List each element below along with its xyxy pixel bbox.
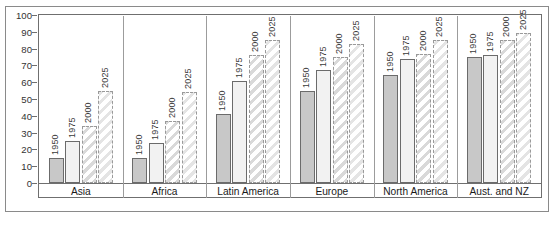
- bar-value-label: 2025: [100, 67, 110, 88]
- y-axis-tick-mark: [32, 133, 37, 134]
- bar-value-label: 2000: [334, 33, 344, 54]
- bar-group: 1950197520002025: [39, 15, 123, 183]
- bar-value-label: 2025: [183, 68, 193, 89]
- y-axis-tick-mark: [32, 149, 37, 150]
- bar-value-label: 1975: [150, 119, 160, 140]
- bar-value-label: 2025: [267, 16, 277, 37]
- bar-2000: [333, 57, 348, 183]
- bar-1975: [400, 59, 415, 183]
- category-label-aust-and-nz: Aust. and NZ: [457, 184, 541, 199]
- category-label-latin-america: Latin America: [206, 184, 290, 199]
- y-axis-tick-label: 60: [21, 77, 32, 88]
- y-axis-tick-mark: [32, 82, 37, 83]
- chart-figure: Percentage of population in urban areas,…: [0, 0, 556, 232]
- category-divider: [206, 16, 207, 198]
- y-axis-tick-label: 30: [21, 127, 32, 138]
- bar-2000: [416, 54, 431, 183]
- bar-2000: [82, 126, 97, 183]
- category-divider: [457, 16, 458, 198]
- bar-value-label: 1950: [468, 33, 478, 54]
- y-axis-tick-mark: [32, 65, 37, 66]
- bar-group: 1950197520002025: [374, 15, 458, 183]
- bar-value-label: 1975: [67, 117, 77, 138]
- bar-1975: [483, 55, 498, 183]
- y-axis-tick-label: 40: [21, 110, 32, 121]
- y-axis-tick-mark: [32, 49, 37, 50]
- bar-value-label: 2025: [434, 16, 444, 37]
- bar-1950: [383, 75, 398, 183]
- y-axis-tick-label: 70: [21, 60, 32, 71]
- y-axis-tick-mark: [32, 116, 37, 117]
- bar-value-label: 1975: [485, 32, 495, 53]
- category-divider: [290, 16, 291, 198]
- y-axis-tick-label: 90: [21, 26, 32, 37]
- bar-value-label: 1975: [318, 47, 328, 68]
- y-axis-tick-label: 10: [21, 161, 32, 172]
- bar-2025: [265, 40, 280, 183]
- y-axis-tick-mark: [32, 166, 37, 167]
- bar-2025: [349, 44, 364, 183]
- y-axis-tick-label: 20: [21, 144, 32, 155]
- bar-1950: [467, 57, 482, 183]
- bar-value-label: 1950: [301, 67, 311, 88]
- y-axis-tick-label: 80: [21, 43, 32, 54]
- bar-value-label: 1950: [50, 134, 60, 155]
- y-axis: 0102030405060708090100: [0, 12, 38, 184]
- bar-value-label: 1950: [385, 52, 395, 73]
- bar-value-label: 2000: [418, 30, 428, 51]
- bar-value-label: 2025: [518, 10, 528, 31]
- bar-1950: [132, 158, 147, 183]
- bar-value-label: 2000: [250, 32, 260, 53]
- bar-group: 1950197520002025: [206, 15, 290, 183]
- bar-value-label: 1950: [217, 90, 227, 111]
- bar-1975: [232, 81, 247, 183]
- bar-1950: [216, 114, 231, 183]
- bar-value-label: 1975: [234, 57, 244, 78]
- category-label-africa: Africa: [123, 184, 207, 199]
- bar-2025: [516, 33, 531, 183]
- category-label-north-america: North America: [374, 184, 458, 199]
- category-label-asia: Asia: [39, 184, 123, 199]
- bar-2025: [182, 92, 197, 183]
- y-axis-tick-mark: [32, 32, 37, 33]
- y-axis-tick-label: 50: [21, 94, 32, 105]
- y-axis-tick-mark: [32, 183, 37, 184]
- category-divider: [374, 16, 375, 198]
- category-label-europe: Europe: [290, 184, 374, 199]
- bar-group: 1950197520002025: [457, 15, 541, 183]
- bar-value-label: 2000: [167, 97, 177, 118]
- bar-value-label: 2000: [501, 16, 511, 37]
- y-axis-tick-mark: [32, 99, 37, 100]
- bar-2000: [249, 55, 264, 183]
- category-axis: AsiaAfricaLatin AmericaEuropeNorth Ameri…: [39, 183, 541, 198]
- bar-value-label: 2000: [83, 102, 93, 123]
- bar-1950: [49, 158, 64, 183]
- category-divider: [123, 16, 124, 198]
- y-axis-tick-mark: [32, 15, 37, 16]
- bar-1975: [149, 143, 164, 183]
- bar-value-label: 2025: [351, 20, 361, 41]
- bar-value-label: 1975: [401, 35, 411, 56]
- y-axis-tick-label: 100: [16, 10, 32, 21]
- bar-2025: [98, 91, 113, 183]
- bar-1975: [316, 70, 331, 183]
- bar-2000: [500, 40, 515, 183]
- bar-1975: [65, 141, 80, 183]
- bar-2025: [433, 40, 448, 183]
- bar-group: 1950197520002025: [290, 15, 374, 183]
- bar-group: 1950197520002025: [123, 15, 207, 183]
- bar-2000: [165, 121, 180, 183]
- bar-1950: [300, 91, 315, 183]
- bar-value-label: 1950: [134, 134, 144, 155]
